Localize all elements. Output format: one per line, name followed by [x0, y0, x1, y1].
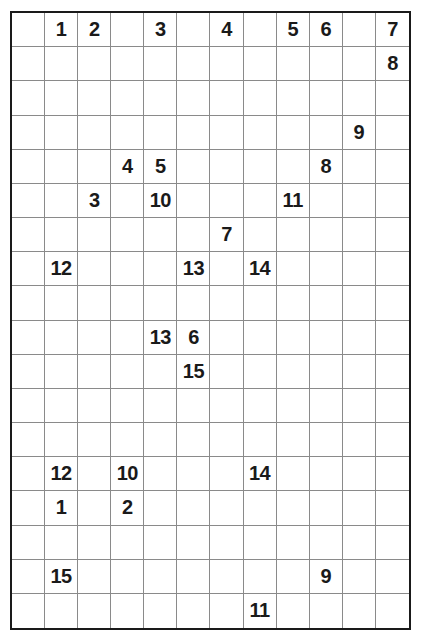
empty-cell[interactable]: [277, 218, 310, 252]
numbered-cell[interactable]: 15: [177, 355, 210, 389]
empty-cell[interactable]: [210, 457, 243, 491]
empty-cell[interactable]: [343, 594, 376, 628]
empty-cell[interactable]: [144, 47, 177, 81]
empty-cell[interactable]: [310, 321, 343, 355]
empty-cell[interactable]: [310, 252, 343, 286]
empty-cell[interactable]: [144, 81, 177, 115]
empty-cell[interactable]: [45, 184, 78, 218]
empty-cell[interactable]: [277, 491, 310, 525]
numbered-cell[interactable]: 2: [78, 13, 111, 47]
empty-cell[interactable]: [45, 47, 78, 81]
empty-cell[interactable]: [343, 150, 376, 184]
empty-cell[interactable]: [177, 218, 210, 252]
empty-cell[interactable]: [277, 457, 310, 491]
empty-cell[interactable]: [277, 389, 310, 423]
empty-cell[interactable]: [310, 286, 343, 320]
empty-cell[interactable]: [177, 491, 210, 525]
empty-cell[interactable]: [343, 13, 376, 47]
empty-cell[interactable]: [78, 594, 111, 628]
empty-cell[interactable]: [244, 321, 277, 355]
empty-cell[interactable]: [310, 184, 343, 218]
empty-cell[interactable]: [78, 355, 111, 389]
empty-cell[interactable]: [343, 252, 376, 286]
empty-cell[interactable]: [78, 491, 111, 525]
empty-cell[interactable]: [12, 218, 45, 252]
empty-cell[interactable]: [343, 321, 376, 355]
empty-cell[interactable]: [376, 389, 409, 423]
empty-cell[interactable]: [111, 218, 144, 252]
empty-cell[interactable]: [144, 286, 177, 320]
empty-cell[interactable]: [144, 355, 177, 389]
empty-cell[interactable]: [78, 526, 111, 560]
empty-cell[interactable]: [244, 150, 277, 184]
empty-cell[interactable]: [277, 526, 310, 560]
empty-cell[interactable]: [343, 491, 376, 525]
empty-cell[interactable]: [111, 116, 144, 150]
empty-cell[interactable]: [12, 321, 45, 355]
empty-cell[interactable]: [177, 13, 210, 47]
empty-cell[interactable]: [12, 116, 45, 150]
empty-cell[interactable]: [343, 286, 376, 320]
empty-cell[interactable]: [177, 423, 210, 457]
empty-cell[interactable]: [12, 286, 45, 320]
empty-cell[interactable]: [144, 252, 177, 286]
empty-cell[interactable]: [177, 47, 210, 81]
numbered-cell[interactable]: 3: [78, 184, 111, 218]
numbered-cell[interactable]: 7: [376, 13, 409, 47]
empty-cell[interactable]: [12, 252, 45, 286]
empty-cell[interactable]: [177, 81, 210, 115]
numbered-cell[interactable]: 4: [210, 13, 243, 47]
numbered-cell[interactable]: 15: [45, 560, 78, 594]
empty-cell[interactable]: [78, 389, 111, 423]
empty-cell[interactable]: [376, 116, 409, 150]
empty-cell[interactable]: [376, 150, 409, 184]
empty-cell[interactable]: [111, 423, 144, 457]
empty-cell[interactable]: [277, 47, 310, 81]
empty-cell[interactable]: [177, 560, 210, 594]
empty-cell[interactable]: [343, 457, 376, 491]
empty-cell[interactable]: [12, 150, 45, 184]
numbered-cell[interactable]: 1: [45, 491, 78, 525]
empty-cell[interactable]: [210, 150, 243, 184]
empty-cell[interactable]: [111, 526, 144, 560]
empty-cell[interactable]: [376, 594, 409, 628]
empty-cell[interactable]: [111, 184, 144, 218]
empty-cell[interactable]: [177, 116, 210, 150]
empty-cell[interactable]: [244, 47, 277, 81]
empty-cell[interactable]: [244, 184, 277, 218]
empty-cell[interactable]: [12, 47, 45, 81]
numbered-cell[interactable]: 5: [144, 150, 177, 184]
empty-cell[interactable]: [244, 116, 277, 150]
empty-cell[interactable]: [310, 526, 343, 560]
empty-cell[interactable]: [111, 252, 144, 286]
numbered-cell[interactable]: 9: [310, 560, 343, 594]
numbered-cell[interactable]: 10: [111, 457, 144, 491]
empty-cell[interactable]: [144, 116, 177, 150]
empty-cell[interactable]: [177, 184, 210, 218]
numbered-cell[interactable]: 4: [111, 150, 144, 184]
empty-cell[interactable]: [177, 286, 210, 320]
empty-cell[interactable]: [177, 526, 210, 560]
empty-cell[interactable]: [310, 355, 343, 389]
empty-cell[interactable]: [244, 560, 277, 594]
empty-cell[interactable]: [210, 252, 243, 286]
empty-cell[interactable]: [277, 81, 310, 115]
empty-cell[interactable]: [376, 560, 409, 594]
empty-cell[interactable]: [277, 355, 310, 389]
empty-cell[interactable]: [111, 355, 144, 389]
empty-cell[interactable]: [144, 423, 177, 457]
empty-cell[interactable]: [45, 389, 78, 423]
empty-cell[interactable]: [244, 218, 277, 252]
empty-cell[interactable]: [376, 286, 409, 320]
empty-cell[interactable]: [78, 321, 111, 355]
empty-cell[interactable]: [310, 116, 343, 150]
empty-cell[interactable]: [244, 423, 277, 457]
empty-cell[interactable]: [12, 81, 45, 115]
empty-cell[interactable]: [244, 526, 277, 560]
empty-cell[interactable]: [210, 355, 243, 389]
empty-cell[interactable]: [144, 457, 177, 491]
empty-cell[interactable]: [210, 389, 243, 423]
empty-cell[interactable]: [244, 81, 277, 115]
empty-cell[interactable]: [78, 81, 111, 115]
empty-cell[interactable]: [310, 594, 343, 628]
